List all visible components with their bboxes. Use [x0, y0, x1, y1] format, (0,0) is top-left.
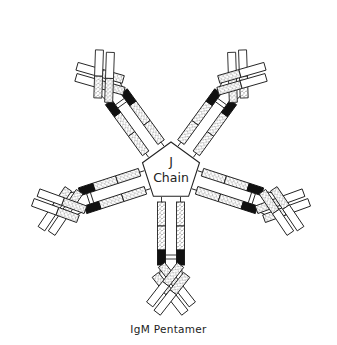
heavy-chain-cmu3-segment [207, 112, 228, 136]
diagram-caption: IgM Pentamer [0, 323, 337, 335]
heavy-chain-cmu4-segment [121, 187, 146, 202]
heavy-chain-cmu3-segment [130, 101, 151, 125]
light-chain-variable-segment [95, 50, 104, 76]
disulfide-bridge [87, 194, 90, 204]
disulfide-bridge [90, 192, 93, 202]
j-chain-link [161, 142, 164, 146]
j-chain-link [178, 142, 181, 146]
heavy-chain-cmu4-segment [177, 202, 185, 226]
heavy-chain-cmu4-segment [158, 202, 166, 226]
j-chain-link [145, 189, 150, 191]
heavy-chain-cmu4-segment [115, 168, 140, 183]
igm-monomer [66, 41, 177, 167]
j-chain-link [140, 171, 145, 173]
heavy-chain-cmu4-segment [178, 120, 199, 144]
heavy-chain-cmu3-segment [224, 176, 249, 191]
disulfide-bridge [248, 192, 251, 202]
heavy-chain-cmu4-segment [195, 187, 220, 202]
j-chain-link [146, 153, 149, 157]
heavy-chain-cmu1-segment [105, 78, 114, 102]
heavy-chain-cmu3-segment [99, 194, 124, 209]
heavy-chain-cmu4-segment [144, 120, 165, 144]
disulfide-bridge [252, 194, 255, 204]
heavy-chain-cmu3-segment [114, 112, 135, 136]
heavy-chain-variable-segment [105, 52, 114, 78]
igm-monomer [187, 155, 315, 240]
heavy-chain-cmu4-segment [128, 132, 149, 156]
heavy-chain-cmu3-segment [93, 176, 118, 191]
igm-pentamer-diagram: J Chain [0, 0, 337, 345]
j-chain-link [193, 153, 196, 157]
heavy-chain-cmu4-segment [201, 168, 226, 183]
heavy-chain-cmu3-segment [218, 194, 243, 209]
light-chain-constant-segment [94, 76, 103, 98]
heavy-chain-cmu4-segment [193, 132, 214, 156]
heavy-chain-cmu3-segment [177, 226, 185, 250]
heavy-chain-cmu3-segment [158, 226, 166, 250]
j-chain-label-line2: Chain [153, 170, 189, 185]
j-chain-link [198, 171, 203, 173]
igm-monomer [165, 41, 276, 167]
igm-monomer [27, 155, 155, 240]
igm-monomer [145, 197, 196, 315]
heavy-chain-cmu3-segment [192, 101, 213, 125]
j-chain-link [192, 189, 197, 191]
j-chain-label-line1: J [168, 154, 173, 169]
